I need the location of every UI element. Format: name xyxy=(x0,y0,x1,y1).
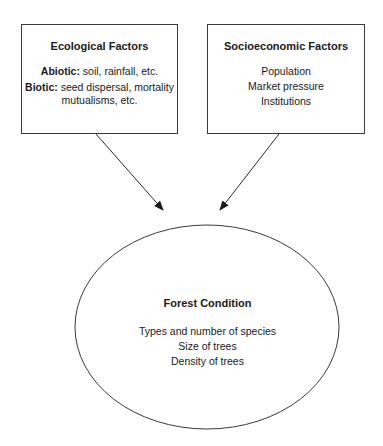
abiotic-line: Abiotic: soil, rainfall, etc. xyxy=(22,65,177,78)
abiotic-label: Abiotic: xyxy=(41,65,80,77)
socioeconomic-item: Market pressure xyxy=(208,80,364,93)
forest-condition-content: Forest Condition Types and number of spe… xyxy=(75,225,340,429)
biotic-line: Biotic: seed dispersal, mortality xyxy=(22,81,177,94)
ecological-factors-box: Ecological Factors Abiotic: soil, rainfa… xyxy=(21,24,178,134)
biotic-text: seed dispersal, mortality xyxy=(58,81,174,93)
forest-condition-item: Size of trees xyxy=(75,339,340,354)
forest-condition-item: Types and number of species xyxy=(75,324,340,339)
ecological-factors-title: Ecological Factors xyxy=(22,40,177,53)
forest-condition-item: Density of trees xyxy=(75,354,340,369)
biotic-label: Biotic: xyxy=(25,81,58,93)
arrow-ecological-to-forest xyxy=(96,134,163,210)
biotic-text-continued: mutualisms, etc. xyxy=(22,94,177,107)
forest-condition-title: Forest Condition xyxy=(75,296,340,311)
socioeconomic-factors-box: Socioeconomic Factors Population Market … xyxy=(207,24,365,134)
socioeconomic-factors-title: Socioeconomic Factors xyxy=(208,40,364,53)
socioeconomic-item: Institutions xyxy=(208,95,364,108)
abiotic-text: soil, rainfall, etc. xyxy=(80,65,158,77)
arrow-socioeconomic-to-forest xyxy=(220,134,279,210)
socioeconomic-item: Population xyxy=(208,65,364,78)
